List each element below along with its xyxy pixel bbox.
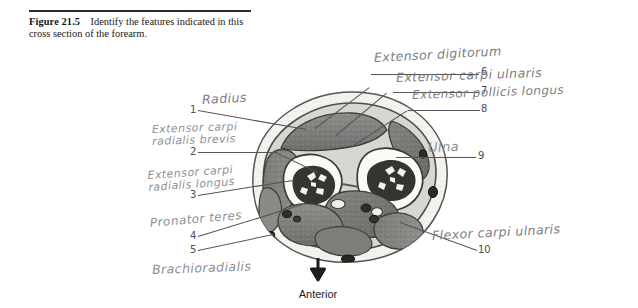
anterior-label: Anterior — [299, 288, 338, 300]
forearm-cross-section-image — [247, 88, 457, 268]
label-number-1: 1 — [190, 104, 196, 115]
label-number-9: 9 — [478, 150, 484, 161]
caption-rule — [29, 10, 251, 12]
label-number-10: 10 — [478, 244, 491, 255]
caption-text: Figure 21.5 Identify the features indica… — [29, 16, 251, 40]
leader-line-8 — [408, 110, 480, 111]
figure-number: Figure 21.5 — [29, 16, 80, 27]
label-number-5: 5 — [190, 244, 196, 255]
figure-caption-block: Figure 21.5 Identify the features indica… — [29, 10, 251, 40]
down-arrow-icon — [310, 258, 326, 288]
handwritten-label-brachioradialis: Brachioradialis — [152, 259, 252, 277]
handwritten-label-extensor-carpi-ulnaris: Extensor carpi ulnaris — [396, 65, 543, 85]
label-number-8: 8 — [481, 103, 487, 114]
handwritten-label-radius: Radius — [202, 90, 248, 107]
figure-page: Figure 21.5 Identify the features indica… — [0, 0, 638, 308]
handwritten-text-3: Extensor carpi radialis longus — [147, 163, 235, 194]
handwritten-label-extensor-pollicis-longus: Extensor pollicis longus — [412, 83, 565, 102]
handwritten-text-2: Extensor carpi radialis brevis — [152, 120, 238, 148]
handwritten-label-extensor-carpi-radialis-brevis: Extensor carpi radialis brevis — [152, 120, 273, 148]
leader-line-2 — [198, 152, 276, 153]
label-number-4: 4 — [190, 230, 196, 241]
label-number-2: 2 — [190, 146, 196, 157]
handwritten-label-extensor-digitorum: Extensor digitorum — [374, 43, 502, 65]
leader-line-9 — [396, 157, 476, 158]
handwritten-label-ulna: Ulna — [428, 139, 460, 155]
